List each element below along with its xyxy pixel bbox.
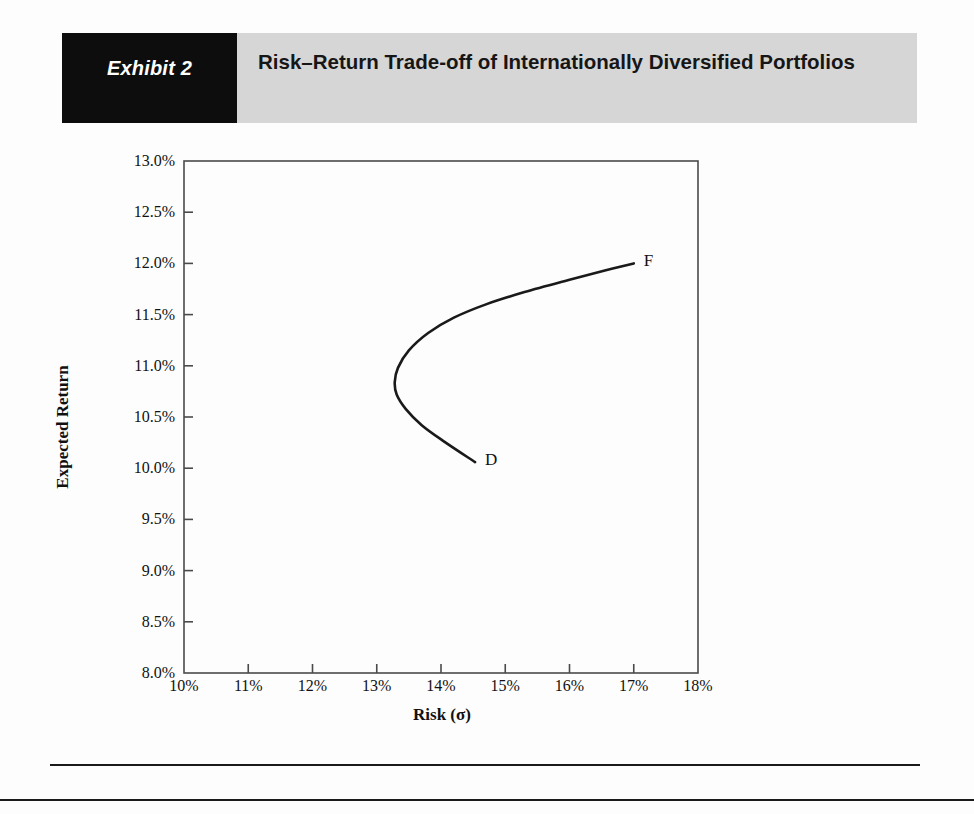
plot-frame (184, 161, 698, 673)
y-axis-ticks (184, 161, 193, 673)
curve-point-label-f: F (644, 251, 653, 271)
x-tick-label: 15% (475, 677, 535, 695)
x-tick-label: 17% (604, 677, 664, 695)
y-tick-label: 11.5% (105, 306, 175, 324)
page-title: Risk–Return Trade-off of Internationally… (258, 47, 855, 77)
x-axis-ticks (184, 664, 698, 673)
y-tick-label: 12.5% (105, 203, 175, 221)
exhibit-title-bar: Risk–Return Trade-off of Internationally… (237, 33, 917, 123)
x-tick-label: 13% (347, 677, 407, 695)
efficient-frontier-curve (395, 263, 634, 462)
exhibit-tag-label: Exhibit 2 (107, 57, 192, 80)
x-tick-label: 10% (154, 677, 214, 695)
y-tick-label: 8.5% (105, 613, 175, 631)
x-tick-label: 12% (283, 677, 343, 695)
exhibit-header: Exhibit 2 Risk–Return Trade-off of Inter… (62, 33, 917, 123)
footer-rule-outer (0, 799, 974, 801)
x-tick-label: 16% (540, 677, 600, 695)
x-tick-label: 14% (411, 677, 471, 695)
y-axis-title: Expected Return (53, 327, 73, 527)
x-tick-label: 11% (218, 677, 278, 695)
curve-point-label-d: D (485, 450, 497, 470)
y-tick-label: 12.0% (105, 254, 175, 272)
y-tick-label: 10.5% (105, 408, 175, 426)
y-tick-label: 11.0% (105, 357, 175, 375)
y-tick-label: 10.0% (105, 459, 175, 477)
y-tick-label: 13.0% (105, 152, 175, 170)
footer-rule-inner (50, 764, 920, 766)
y-tick-label: 8.0% (105, 664, 175, 682)
x-axis-title: Risk (σ) (342, 705, 542, 725)
x-tick-label: 18% (668, 677, 728, 695)
y-tick-label: 9.0% (105, 562, 175, 580)
exhibit-tag: Exhibit 2 (62, 33, 237, 123)
exhibit-page: Exhibit 2 Risk–Return Trade-off of Inter… (0, 0, 974, 814)
y-tick-label: 9.5% (105, 510, 175, 528)
